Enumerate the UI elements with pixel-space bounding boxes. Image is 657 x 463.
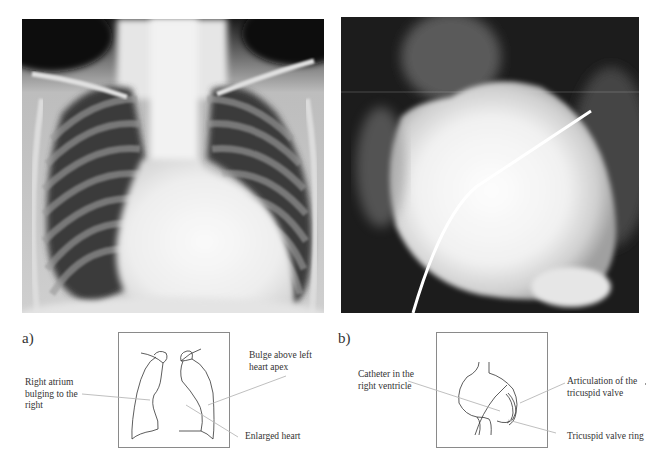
label-bulge-above-left-heart-apex: Bulge above left heart apex xyxy=(249,350,312,373)
chest-xray-image xyxy=(22,19,324,313)
panel-letter-a: a) xyxy=(22,330,34,347)
label-right-atrium: Right atrium bulging to the right xyxy=(25,377,78,412)
diagram-box-heart-outline xyxy=(436,332,548,448)
label-catheter-right-ventricle: Catheter in the right ventricle xyxy=(358,369,414,392)
label-tricuspid-valve-ring: Tricuspid valve ring xyxy=(567,431,644,443)
label-enlarged-heart: Enlarged heart xyxy=(245,431,300,443)
diagram-box-chest-outline xyxy=(118,332,230,448)
angiogram-image xyxy=(341,17,639,313)
print-speck xyxy=(645,383,646,385)
panel-letter-b: b) xyxy=(338,330,351,347)
label-articulation-tricuspid-valve: Articulation of the tricuspid valve xyxy=(567,376,637,399)
